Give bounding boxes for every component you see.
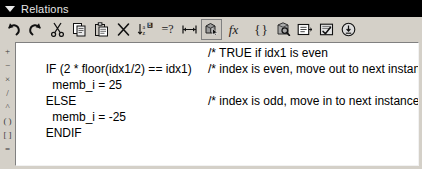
gutter-op-minus[interactable]: − xyxy=(0,58,15,72)
copy-button[interactable] xyxy=(69,19,90,40)
check-relations-button[interactable] xyxy=(316,19,337,40)
sort-az-icon: a z B xyxy=(137,22,154,37)
code-line[interactable]: ELSE xyxy=(19,77,418,93)
code-line-comment: /* TRUE if idx1 is even xyxy=(208,45,328,61)
relations-dialog: Relations xyxy=(0,0,422,169)
gutter-op-equals[interactable]: = xyxy=(0,142,15,156)
code-line[interactable]: ENDIF xyxy=(19,109,418,125)
code-line[interactable]: memb_i = -25 /* index is odd, move in to… xyxy=(19,93,418,109)
titlebar: Relations xyxy=(0,0,422,17)
fx-function-icon: fx xyxy=(229,23,238,36)
operator-gutter: + − × / ^ ( ) [ ] = xyxy=(0,41,15,169)
triangle-down-icon[interactable] xyxy=(5,6,15,12)
note-list-icon xyxy=(297,23,313,36)
verify-button[interactable]: =? xyxy=(157,19,178,40)
code-line-text: ENDIF xyxy=(46,126,82,140)
checkmark-page-icon xyxy=(319,23,335,36)
editor-area: + − × / ^ ( ) [ ] = IF (2 * floor(idx1/2… xyxy=(0,41,422,169)
pick-model-icon xyxy=(204,22,219,36)
gutter-op-divide[interactable]: / xyxy=(0,86,15,100)
paste-button[interactable] xyxy=(91,19,112,40)
gutter-op-power[interactable]: ^ xyxy=(0,100,15,114)
gutter-op-brackets[interactable]: [ ] xyxy=(0,128,15,142)
dimension-arrow-icon xyxy=(181,23,198,36)
units-button[interactable] xyxy=(179,19,200,40)
scissors-icon xyxy=(50,22,65,37)
notes-button[interactable] xyxy=(294,19,315,40)
svg-text:B: B xyxy=(148,23,151,28)
close-x-icon xyxy=(116,22,131,37)
copy-icon xyxy=(72,22,87,37)
redo-arrow-icon xyxy=(27,22,44,37)
relations-text-input[interactable]: IF (2 * floor(idx1/2) == idx1) /* TRUE i… xyxy=(15,42,419,166)
units-bracket-button[interactable]: { } xyxy=(250,19,271,40)
functions-button[interactable]: fx xyxy=(223,19,244,40)
parameters-button[interactable] xyxy=(272,19,293,40)
gutter-op-multiply[interactable]: × xyxy=(0,72,15,86)
gutter-op-plus[interactable]: + xyxy=(0,44,15,58)
select-model-button[interactable] xyxy=(201,19,222,40)
svg-text:a: a xyxy=(143,23,146,29)
code-line-comment: /* index is odd, move in to next instanc… xyxy=(208,93,419,109)
delete-button[interactable] xyxy=(113,19,134,40)
code-line[interactable]: memb_i = 25 /* index is even, move out t… xyxy=(19,61,418,77)
page-title: Relations xyxy=(21,3,69,15)
toolbar: a z B =? fx { } xyxy=(0,17,422,41)
curly-brackets-icon: { } xyxy=(254,23,267,36)
redo-button[interactable] xyxy=(25,19,46,40)
svg-text:z: z xyxy=(143,30,146,36)
undo-arrow-icon xyxy=(5,22,22,37)
cut-button[interactable] xyxy=(47,19,68,40)
code-line-comment: /* index is even, move out to next insta… xyxy=(208,61,419,77)
code-line[interactable]: IF (2 * floor(idx1/2) == idx1) /* TRUE i… xyxy=(19,45,418,61)
info-circle-icon xyxy=(341,22,356,37)
paste-icon xyxy=(94,22,109,37)
parameters-search-icon xyxy=(275,22,291,36)
info-button[interactable] xyxy=(338,19,359,40)
gutter-op-parens[interactable]: ( ) xyxy=(0,114,15,128)
sort-button[interactable]: a z B xyxy=(135,19,156,40)
equals-question-icon: =? xyxy=(161,23,173,35)
undo-button[interactable] xyxy=(3,19,24,40)
